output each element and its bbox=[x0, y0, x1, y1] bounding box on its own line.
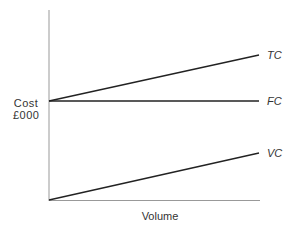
y-axis-label: Cost £000 bbox=[13, 97, 39, 121]
vc-line bbox=[49, 153, 259, 200]
chart-plot bbox=[0, 0, 295, 231]
y-axis-label-line2: £000 bbox=[13, 109, 39, 121]
fc-label: FC bbox=[267, 95, 282, 107]
vc-label: VC bbox=[267, 147, 282, 159]
y-axis-label-line1: Cost bbox=[13, 97, 39, 109]
x-axis-label: Volume bbox=[140, 210, 180, 222]
tc-label: TC bbox=[267, 49, 282, 61]
tc-line bbox=[49, 55, 259, 101]
